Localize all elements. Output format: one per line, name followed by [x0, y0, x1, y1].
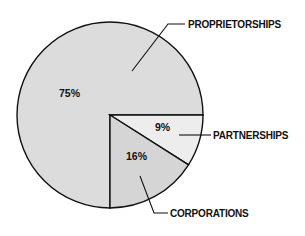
- pct-label-partnerships: 9%: [155, 121, 171, 133]
- pct-label-corporations: 16%: [126, 150, 148, 162]
- pie-chart: 75% 9% 16% PROPRIETORSHIPS PARTNERSHIPS …: [0, 0, 305, 236]
- pie-chart-svg: 75% 9% 16% PROPRIETORSHIPS PARTNERSHIPS …: [0, 0, 305, 236]
- label-proprietorships: PROPRIETORSHIPS: [188, 19, 281, 30]
- label-corporations: CORPORATIONS: [170, 208, 249, 219]
- pct-label-proprietorships: 75%: [59, 87, 81, 99]
- label-partnerships: PARTNERSHIPS: [213, 130, 289, 141]
